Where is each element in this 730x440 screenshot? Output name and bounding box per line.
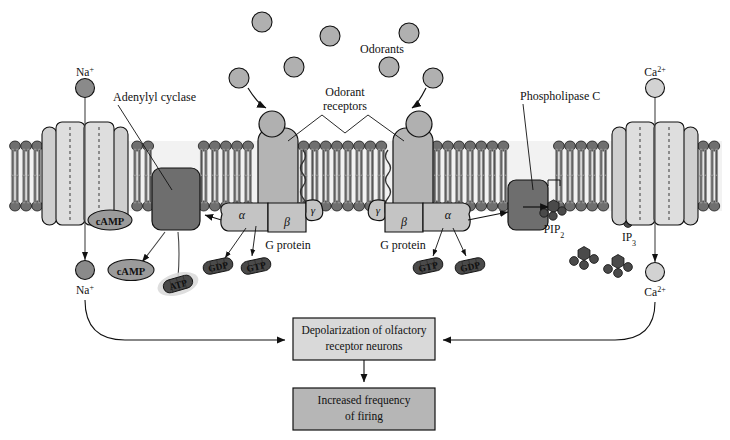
g-alpha-right: α: [445, 208, 452, 222]
na-ion-intracellular: [76, 261, 95, 280]
odorant-particle: [252, 12, 272, 32]
bound-odorant-left: [259, 111, 285, 137]
increased-firing-line2: of firing: [345, 410, 383, 423]
na-ion-extracellular: [76, 79, 95, 98]
odorant-particle: [284, 57, 304, 77]
g-gamma-right: γ: [376, 204, 381, 216]
camp-free-label: cAMP: [117, 266, 146, 277]
camp-free: cAMP: [108, 260, 154, 281]
depolarization-line1: Depolarization of olfactory: [301, 324, 426, 337]
g-beta-right: β: [400, 215, 407, 229]
depolarization-line2: receptor neurons: [326, 340, 403, 353]
g-alpha-left: α: [239, 208, 246, 222]
ca-ion-intracellular: [646, 263, 665, 282]
odorant-particle: [229, 68, 249, 88]
g-gamma-left: γ: [311, 204, 316, 216]
odorants-label: Odorants: [360, 42, 404, 56]
odorant-particle: [423, 68, 443, 88]
phospholipase-c[interactable]: [508, 180, 548, 230]
odorant-particle: [320, 26, 340, 46]
bound-odorant-right: [406, 111, 432, 137]
ca-ion-extracellular: [646, 79, 665, 98]
figure-canvas: Na+ Na+ cAMP Adenylyl cyclase cAMP ATP O…: [0, 0, 730, 440]
odorant-particle: [399, 23, 419, 43]
adenylyl-cyclase-label: Adenylyl cyclase: [113, 90, 196, 104]
g-beta-left: β: [283, 215, 290, 229]
camp-bound-label: cAMP: [96, 216, 125, 227]
odorant-receptors-label-line2: receptors: [323, 99, 367, 113]
depolarization-box: Depolarization of olfactory receptor neu…: [293, 318, 435, 360]
phospholipase-c-label: Phospholipase C: [520, 89, 600, 103]
g-protein-right-label: G protein: [380, 238, 426, 252]
odorant-particle: [379, 57, 399, 77]
g-protein-left-label: G protein: [265, 238, 311, 252]
olfactory-transduction-diagram: Na+ Na+ cAMP Adenylyl cyclase cAMP ATP O…: [0, 0, 730, 440]
increased-firing-box: Increased frequency of firing: [293, 388, 435, 430]
odorant-receptors-label-line1: Odorant: [325, 85, 365, 99]
increased-firing-line1: Increased frequency: [318, 394, 411, 407]
adenylyl-cyclase[interactable]: [152, 168, 200, 230]
camp-bound-to-channel: cAMP: [88, 210, 132, 230]
